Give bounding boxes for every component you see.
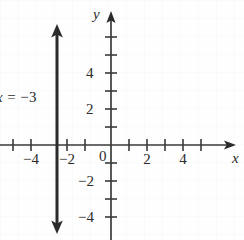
x-tick-label-neg4: −4	[23, 152, 39, 167]
y-axis-label: y	[93, 7, 100, 22]
equation-label-equals: =	[7, 89, 16, 105]
origin-label: 0	[99, 149, 107, 164]
background-grid	[0, 0, 244, 240]
x-tick-label-pos4: 4	[179, 152, 187, 167]
x-axis-label: x	[232, 151, 239, 166]
y-tick-label-pos4: 4	[86, 66, 94, 81]
graph-figure: y x 0 −4 −2 2 4 4 2 −2 −4 x = −3	[0, 0, 244, 240]
equation-label-value: −3	[20, 89, 37, 105]
equation-label-variable: x	[0, 89, 3, 105]
y-tick-label-pos2: 2	[86, 102, 94, 117]
y-tick-label-neg4: −4	[78, 210, 94, 225]
x-tick-label-pos2: 2	[143, 152, 151, 167]
x-tick-label-neg2: −2	[59, 152, 75, 167]
equation-label: x = −3	[0, 90, 37, 105]
y-tick-label-neg2: −2	[78, 174, 94, 189]
coordinate-plane-svg	[0, 0, 244, 240]
